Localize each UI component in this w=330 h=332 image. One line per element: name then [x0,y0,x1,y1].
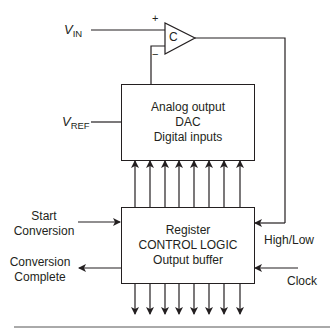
comparator-label: C [169,30,178,45]
dac-line-digital-inputs: Digital inputs [154,130,223,145]
dac-line-dac: DAC [175,115,200,130]
clock-label: Clock [287,274,317,289]
vref-label: VREF [62,114,90,133]
conversion-complete-label: ConversionComplete [0,255,80,285]
comparator-plus-sign: + [152,11,158,26]
start-conversion-label: StartConversion [4,209,84,239]
digital-output-bus [135,283,240,314]
register-block: Register CONTROL LOGIC Output buffer [121,207,255,284]
register-line-output-buffer: Output buffer [153,253,223,268]
register-line-register: Register [166,223,211,238]
dac-line-analog-output: Analog output [151,100,225,115]
dac-block: Analog output DAC Digital inputs [121,84,255,161]
dac-input-bus [135,161,240,207]
vin-label: VIN [64,22,82,41]
comparator-minus-sign: − [152,47,158,62]
register-line-control-logic: CONTROL LOGIC [139,238,238,253]
high-low-label: High/Low [264,233,314,248]
